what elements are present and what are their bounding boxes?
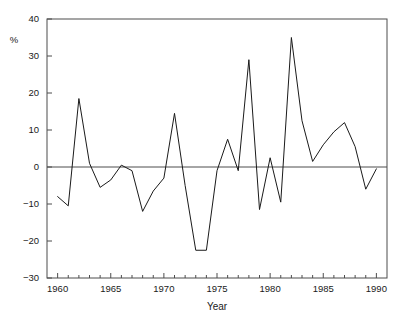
data-series bbox=[58, 38, 377, 251]
y-axis-ticks bbox=[47, 19, 52, 278]
y-tick-label: 20 bbox=[28, 87, 39, 98]
line-chart: −30−20−100102030401960196519701975198019… bbox=[0, 0, 406, 319]
y-tick-label: 30 bbox=[28, 50, 39, 61]
plot-frame bbox=[47, 19, 387, 278]
x-tick-label: 1970 bbox=[153, 283, 174, 294]
y-tick-label: 40 bbox=[28, 13, 39, 24]
y-tick-label: −20 bbox=[23, 235, 39, 246]
x-axis-title: Year bbox=[207, 301, 228, 312]
x-tick-label: 1960 bbox=[47, 283, 68, 294]
plot-area-border bbox=[47, 19, 387, 278]
x-axis-ticks bbox=[58, 273, 377, 278]
y-tick-label: 10 bbox=[28, 124, 39, 135]
x-tick-label: 1980 bbox=[260, 283, 281, 294]
chart-container: −30−20−100102030401960196519701975198019… bbox=[0, 0, 406, 319]
y-axis-title: % bbox=[10, 34, 19, 45]
x-tick-label: 1985 bbox=[313, 283, 334, 294]
y-tick-label: −10 bbox=[23, 198, 39, 209]
x-tick-label: 1965 bbox=[100, 283, 121, 294]
y-tick-label: −30 bbox=[23, 272, 39, 283]
series-line bbox=[58, 38, 377, 251]
x-tick-label: 1990 bbox=[366, 283, 387, 294]
axis-tick-labels: −30−20−100102030401960196519701975198019… bbox=[23, 13, 387, 294]
x-tick-label: 1975 bbox=[206, 283, 227, 294]
y-tick-label: 0 bbox=[34, 161, 39, 172]
